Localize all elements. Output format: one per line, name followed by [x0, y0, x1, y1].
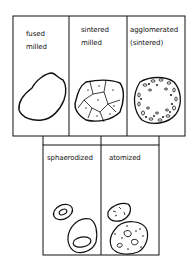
label-line: sphaerodized [47, 153, 93, 163]
label-sintered-milled: sintered milled [81, 25, 109, 48]
sintered-milled-particle [75, 80, 123, 122]
label-line: agglomerated [130, 25, 178, 35]
agglomerated-particle [134, 78, 180, 124]
sphaerodized-particles [51, 201, 97, 252]
atomized-particles [108, 203, 148, 254]
label-line: (sintered) [130, 38, 178, 48]
label-sphaerodized: sphaerodized [47, 153, 93, 163]
label-line: milled [81, 38, 109, 48]
label-line: sintered [81, 25, 109, 35]
label-agglomerated: agglomerated (sintered) [130, 25, 178, 48]
label-fused-milled: fused milled [26, 29, 47, 52]
label-line: milled [26, 42, 47, 52]
label-line: atomized [109, 153, 141, 163]
label-atomized: atomized [109, 153, 141, 163]
label-line: fused [26, 29, 47, 39]
fused-milled-particle [19, 73, 66, 120]
